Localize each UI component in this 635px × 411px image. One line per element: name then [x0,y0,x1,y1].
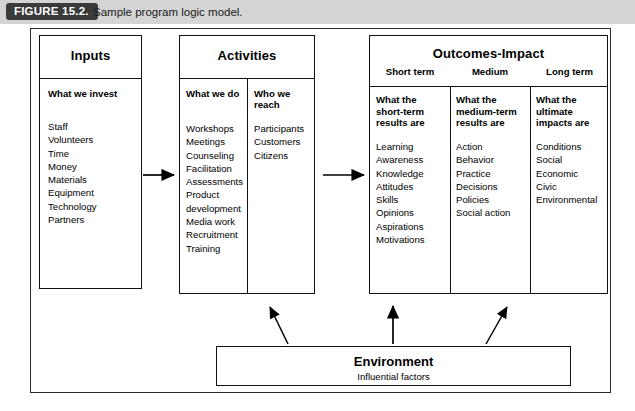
inputs-box: Inputs What we invest Staff Volunteers T… [39,35,142,289]
environment-subtitle: Influential factors [217,371,570,382]
list-item: Participants [254,122,304,135]
outcomes-term-short: Short term [370,66,450,77]
outcomes-column-divider-2 [530,86,531,293]
list-item: Awareness [376,153,425,166]
list-item: development [186,202,243,215]
list-item: Economic [536,167,597,180]
outcomes-term-long: Long term [530,66,609,77]
outcomes-impact-box: Outcomes-Impact Short term Medium Long t… [369,35,608,294]
outcomes-long-list: Conditions Social Economic Civic Environ… [536,140,597,206]
inputs-subheading: What we invest [48,88,117,100]
activities-what-we-do-heading: What we do [186,88,239,99]
figure-number-badge: FIGURE 15.2. [6,3,98,20]
subheading-line: What the [536,94,608,106]
list-item: Workshops [186,122,243,135]
list-item: Media work [186,215,243,228]
list-item: Technology [48,200,97,213]
outcomes-medium-list: Action Behavior Practice Decisions Polic… [456,140,510,220]
list-item: Assessments [186,175,243,188]
list-item: Volunteers [48,133,97,146]
subheading-line: medium-term [456,106,530,118]
activities-box: Activities What we do Who we reach Works… [179,35,315,294]
list-item: Customers [254,135,304,148]
list-item: Civic [536,180,597,193]
list-item: Social action [456,206,510,219]
figure-caption-bar: FIGURE 15.2. Sample program logic model. [0,0,635,24]
list-item: Counseling [186,149,243,162]
outcomes-impact-title: Outcomes-Impact [370,46,607,61]
list-item: Opinions [376,206,425,219]
list-item: Practice [456,167,510,180]
list-item: Time [48,147,97,160]
list-item: Facilitation [186,162,243,175]
list-item: Training [186,242,243,255]
inputs-title: Inputs [40,48,141,63]
subheading-line: ultimate [536,106,608,118]
activities-what-we-do-list: Workshops Meetings Counseling Facilitati… [186,122,243,255]
heading-line: Who we [254,88,290,99]
list-item: Skills [376,193,425,206]
subheading-line: What the [376,94,450,106]
logic-model-frame: Inputs What we invest Staff Volunteers T… [30,28,611,393]
activities-column-divider [247,78,248,293]
environment-title: Environment [217,354,570,369]
subheading-line: results are [376,117,450,129]
outcomes-term-medium: Medium [450,66,530,77]
list-item: Aspirations [376,220,425,233]
environment-box: Environment Influential factors [216,346,571,386]
arrow-environment-to-outcomes-long [486,307,507,344]
outcomes-short-subheading: What the short-term results are [376,94,450,129]
inputs-divider [40,78,141,79]
activities-title: Activities [180,48,314,63]
list-item: Money [48,160,97,173]
subheading-line: short-term [376,106,450,118]
activities-who-we-reach-list: Participants Customers Citizens [254,122,304,162]
subheading-line: results are [456,117,530,129]
list-item: Behavior [456,153,510,166]
activities-who-we-reach-heading: Who we reach [254,88,290,111]
list-item: Partners [48,213,97,226]
list-item: Policies [456,193,510,206]
outcomes-short-list: Learning Awareness Knowledge Attitudes S… [376,140,425,246]
outcomes-divider [370,86,607,87]
list-lead: Action [456,140,510,153]
arrow-environment-to-activities [270,307,288,344]
inputs-item-list: Staff Volunteers Time Money Materials Eq… [48,120,97,226]
list-item: Meetings [186,135,243,148]
outcomes-column-divider-1 [450,86,451,293]
outcomes-medium-subheading: What the medium-term results are [456,94,530,129]
list-item: Motivations [376,233,425,246]
list-item: Citizens [254,149,304,162]
list-item: Product [186,188,243,201]
subheading-line: What the [456,94,530,106]
list-lead: Learning [376,140,425,153]
list-item: Recruitment [186,228,243,241]
list-item: Attitudes [376,180,425,193]
list-item: Knowledge [376,167,425,180]
subheading-line: impacts are [536,117,608,129]
list-item: Social [536,153,597,166]
list-item: Equipment [48,186,97,199]
list-item: Materials [48,173,97,186]
list-item: Decisions [456,180,510,193]
list-lead: Conditions [536,140,597,153]
outcomes-long-subheading: What the ultimate impacts are [536,94,608,129]
list-item: Staff [48,120,97,133]
list-item: Environmental [536,193,597,206]
heading-line: reach [254,99,290,110]
figure-caption-text: Sample program logic model. [93,4,243,20]
